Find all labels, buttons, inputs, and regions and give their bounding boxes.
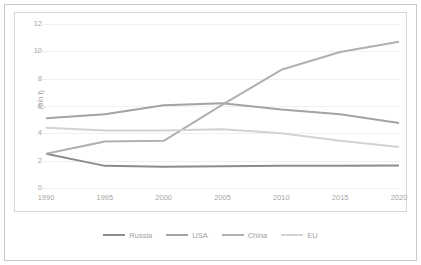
legend-label: USA (192, 231, 207, 240)
legend-line-icon (281, 234, 303, 236)
legend-line-icon (166, 234, 188, 236)
legend-label: Russia (129, 231, 152, 240)
chart-series-layer (14, 12, 407, 212)
line-chart: (bln t) 024681012 1990199520002005201020… (14, 12, 407, 212)
legend-line-icon (222, 234, 244, 236)
series-line-china (46, 42, 399, 154)
legend-item-russia[interactable]: Russia (103, 231, 152, 240)
series-line-russia (46, 154, 399, 167)
chart-legend: RussiaUSAChinaEU (14, 224, 407, 246)
legend-line-icon (103, 234, 125, 236)
legend-item-usa[interactable]: USA (166, 231, 207, 240)
legend-item-china[interactable]: China (222, 231, 268, 240)
legend-label: China (248, 231, 268, 240)
legend-label: EU (307, 231, 317, 240)
series-line-usa (46, 103, 399, 123)
legend-item-eu[interactable]: EU (281, 231, 317, 240)
screenshot-canvas: (bln t) 024681012 1990199520002005201020… (0, 0, 421, 265)
series-line-eu (46, 128, 399, 147)
